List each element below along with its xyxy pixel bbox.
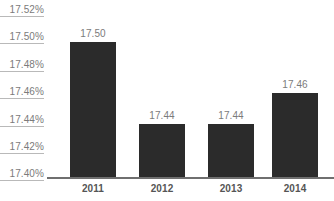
bar-chart: 17.52% 17.50% 17.48% 17.46% 17.44% 17.42… [0,0,334,201]
y-axis-tick-3: 17.46% [0,86,44,99]
y-axis-tick-1: 17.50% [0,31,44,44]
y-axis-tick-label: 17.48% [0,59,44,72]
bar-2011 [70,42,116,177]
x-axis-label-2014: 2014 [272,183,318,195]
bar-value-2014: 17.46 [272,79,318,90]
y-axis-tick-label: 17.42% [0,141,44,154]
x-axis-label-2011: 2011 [70,183,116,195]
y-axis-tick-6: 17.40% [0,168,44,181]
bar-2013 [208,124,254,177]
bar-value-2011: 17.50 [70,28,116,39]
bar-2012 [139,124,185,177]
y-axis-tick-label: 17.40% [0,168,44,181]
y-axis-tick-label: 17.52% [0,4,44,17]
x-axis-label-2012: 2012 [139,183,185,195]
bar-2014 [272,93,318,177]
y-axis-tick-0: 17.52% [0,4,44,17]
y-axis-tick-2: 17.48% [0,59,44,72]
x-axis-label-2013: 2013 [208,183,254,195]
y-axis-tick-label: 17.50% [0,31,44,44]
bar-value-2012: 17.44 [139,110,185,121]
y-axis-tick-4: 17.44% [0,114,44,127]
y-axis-tick-label: 17.44% [0,114,44,127]
y-axis-tick-5: 17.42% [0,141,44,154]
bar-value-2013: 17.44 [208,110,254,121]
y-axis-tick-label: 17.46% [0,86,44,99]
x-axis-line [47,177,334,179]
